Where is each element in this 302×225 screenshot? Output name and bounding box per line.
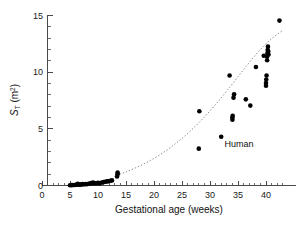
y-axis-tick-label: 0	[38, 181, 43, 191]
data-point	[264, 77, 269, 82]
y-axis-tick-label: 10	[33, 67, 43, 77]
x-axis-tick-labels: 0510152025303540	[39, 190, 271, 200]
x-axis-tick-label: 30	[205, 190, 215, 200]
axes-group	[42, 15, 296, 186]
data-point	[264, 73, 269, 78]
data-point	[232, 92, 237, 97]
fitted-trend-curve	[116, 30, 282, 175]
data-point	[227, 73, 232, 78]
x-axis-tick-label: 5	[67, 190, 72, 200]
x-axis-tick-label: 40	[261, 190, 271, 200]
data-point	[244, 97, 249, 102]
y-axis-tick-label: 5	[38, 124, 43, 134]
y-axis-title-units: (m	[9, 91, 20, 103]
data-point	[230, 114, 235, 119]
y-axis-title-close: )	[9, 84, 20, 87]
data-point	[110, 178, 115, 183]
data-point	[197, 146, 202, 151]
x-axis-title: Gestational age (weeks)	[115, 204, 223, 215]
data-point	[197, 109, 202, 114]
data-points-group	[68, 18, 282, 187]
data-point	[219, 134, 224, 139]
y-axis-title: ST (m2)	[9, 84, 21, 116]
x-axis-tick-label: 20	[149, 190, 159, 200]
annotations-group: Human	[225, 139, 254, 149]
x-axis-tick-label: 0	[39, 190, 44, 200]
data-point	[277, 18, 282, 23]
data-point	[254, 65, 259, 70]
data-point	[115, 170, 120, 175]
x-axis-tick-label: 10	[93, 190, 103, 200]
data-point	[266, 44, 271, 49]
x-axis-tick-label: 35	[233, 190, 243, 200]
y-axis-ticks	[48, 16, 53, 186]
y-axis-tick-label: 15	[33, 11, 43, 21]
y-axis-tick-labels: 051015	[33, 11, 43, 191]
data-point	[266, 52, 271, 57]
data-point	[248, 103, 253, 108]
scatter-plot: 0510152025303540 051015 Human Gestationa…	[0, 0, 302, 225]
chart-annotation-label: Human	[225, 139, 254, 149]
chart-container: 0510152025303540 051015 Human Gestationa…	[0, 0, 302, 225]
x-axis-tick-label: 15	[121, 190, 131, 200]
x-axis-tick-label: 25	[177, 190, 187, 200]
